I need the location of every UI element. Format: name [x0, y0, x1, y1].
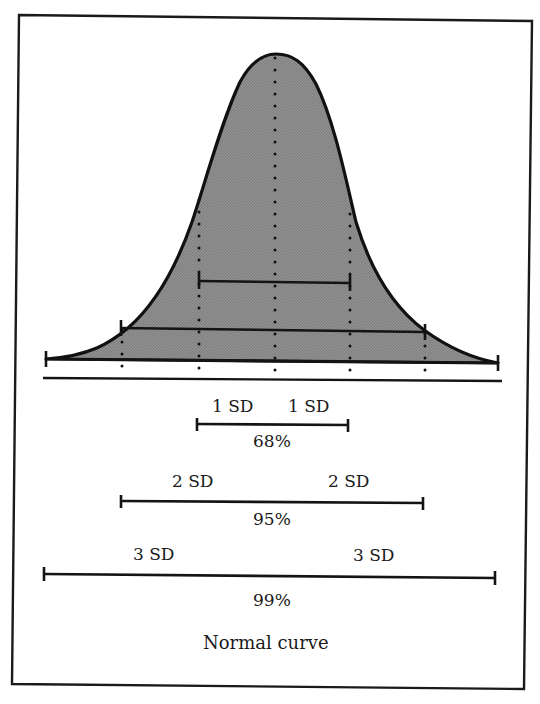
guide-dot — [198, 343, 201, 346]
guide-dot — [274, 165, 277, 168]
guide-dot — [424, 345, 427, 348]
percent-99: 99% — [253, 590, 291, 610]
bell-curve — [46, 54, 498, 363]
label-3sd-left: 3 SD — [133, 544, 175, 564]
guide-dot — [349, 369, 352, 372]
percent-95: 95% — [253, 509, 291, 529]
guide-dot — [274, 237, 277, 240]
guide-dot — [198, 271, 201, 274]
guide-dot — [198, 367, 201, 370]
guide-dot — [274, 69, 277, 72]
guide-dot — [274, 177, 277, 180]
label-1sd-left: 1 SD — [212, 396, 254, 416]
guide-dot — [198, 283, 201, 286]
guide-dot — [424, 333, 427, 336]
guide-dot — [274, 117, 277, 120]
guide-dot — [274, 153, 277, 156]
guide-dot — [274, 345, 277, 348]
guide-dot — [121, 353, 124, 356]
guide-dot — [198, 235, 201, 238]
guide-dot — [274, 333, 277, 336]
guide-dot — [198, 355, 201, 358]
guide-dot — [274, 225, 277, 228]
range-2sd: 2 SD 2 SD 95% — [121, 471, 423, 529]
guide-dot — [349, 333, 352, 336]
guide-dot — [424, 357, 427, 360]
guide-dot — [274, 297, 277, 300]
guide-dot — [274, 369, 277, 372]
guide-dot — [198, 259, 201, 262]
guide-dot — [349, 321, 352, 324]
guide-dot — [349, 285, 352, 288]
guide-dot — [274, 201, 277, 204]
normal-curve-diagram: 1 SD 1 SD 68% 2 SD 2 SD 95% 3 SD 3 SD 99… — [0, 0, 540, 704]
guide-dot — [349, 225, 352, 228]
guide-dot — [274, 261, 277, 264]
range-1sd: 1 SD 1 SD 68% — [197, 396, 348, 451]
guide-dot — [198, 247, 201, 250]
guide-dot — [198, 319, 201, 322]
guide-dot — [349, 237, 352, 240]
guide-dot — [274, 249, 277, 252]
figure-caption: Normal curve — [203, 632, 329, 653]
guide-dot — [274, 57, 277, 60]
guide-dot — [274, 189, 277, 192]
guide-dot — [198, 307, 201, 310]
guide-dot — [121, 365, 124, 368]
guide-dot — [274, 285, 277, 288]
label-3sd-right: 3 SD — [353, 545, 395, 565]
guide-dot — [274, 105, 277, 108]
guide-dot — [198, 223, 201, 226]
guide-dot — [274, 357, 277, 360]
guide-dot — [198, 199, 201, 202]
guide-dot — [274, 129, 277, 132]
guide-dot — [274, 321, 277, 324]
guide-dot — [349, 345, 352, 348]
guide-dot — [274, 93, 277, 96]
x-axis-baseline — [43, 378, 502, 381]
guide-dot — [274, 213, 277, 216]
label-2sd-right: 2 SD — [328, 471, 370, 491]
guide-dot — [349, 273, 352, 276]
guide-dot — [121, 341, 124, 344]
guide-dot — [424, 369, 427, 372]
guide-dot — [349, 357, 352, 360]
guide-dot — [121, 329, 124, 332]
guide-dot — [349, 309, 352, 312]
label-1sd-right: 1 SD — [288, 396, 330, 416]
guide-dot — [274, 309, 277, 312]
guide-dot — [274, 141, 277, 144]
guide-dot — [274, 81, 277, 84]
guide-dot — [198, 295, 201, 298]
guide-dot — [349, 249, 352, 252]
guide-dot — [349, 261, 352, 264]
range-3sd: 3 SD 3 SD 99% — [44, 544, 495, 610]
guide-dot — [349, 213, 352, 216]
guide-dot — [274, 273, 277, 276]
guide-dot — [198, 331, 201, 334]
guide-dot — [198, 211, 201, 214]
guide-dot — [349, 297, 352, 300]
percent-68: 68% — [253, 431, 291, 451]
label-2sd-left: 2 SD — [172, 471, 214, 491]
